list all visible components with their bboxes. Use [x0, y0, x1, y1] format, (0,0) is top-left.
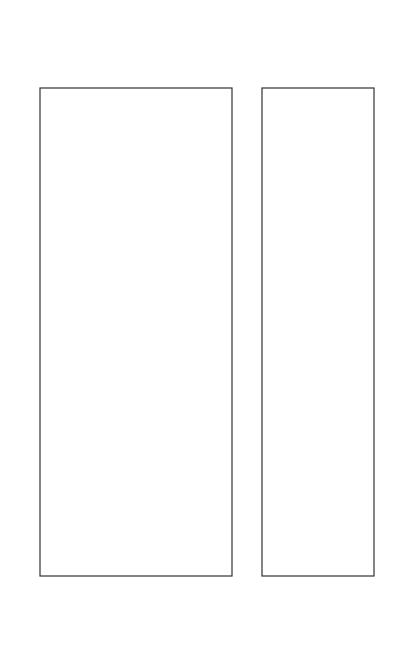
range-chart-panel: [262, 88, 374, 576]
median-chart-panel: [40, 88, 232, 576]
range-plot-frame: [262, 88, 374, 576]
median-plot-frame: [40, 88, 232, 576]
control-chart: [0, 0, 418, 647]
